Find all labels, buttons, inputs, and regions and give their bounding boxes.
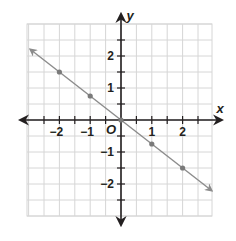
data-point xyxy=(88,93,93,98)
x-tick-label: −2 xyxy=(50,125,64,139)
x-axis-label: x xyxy=(215,101,224,116)
x-tick-label: 2 xyxy=(179,125,186,139)
data-point xyxy=(57,69,62,74)
y-tick-label: 2 xyxy=(107,49,114,63)
data-point xyxy=(180,165,185,170)
y-tick-label: −1 xyxy=(100,145,114,159)
y-axis-label: y xyxy=(125,8,134,23)
data-point xyxy=(118,117,123,122)
data-point xyxy=(149,141,154,146)
y-tick-label: 1 xyxy=(107,81,114,95)
coordinate-plane: −2−11221−1−2Oxy xyxy=(0,0,236,241)
origin-label: O xyxy=(106,122,116,137)
y-tick-label: −2 xyxy=(100,177,114,191)
x-tick-label: −1 xyxy=(80,125,94,139)
x-tick-label: 1 xyxy=(148,125,155,139)
